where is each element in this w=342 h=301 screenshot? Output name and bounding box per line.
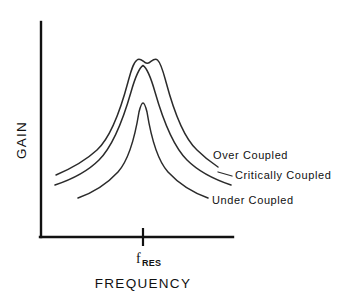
label-over-coupled: Over Coupled bbox=[213, 149, 288, 161]
chart-figure: Over Coupled Critically Coupled Under Co… bbox=[0, 0, 342, 301]
coupling-response-chart: Over Coupled Critically Coupled Under Co… bbox=[0, 0, 342, 301]
y-axis-title: GAIN bbox=[14, 121, 29, 159]
x-axis-title: FREQUENCY bbox=[95, 276, 191, 291]
label-under-coupled: Under Coupled bbox=[212, 194, 294, 206]
x-tick-label-fres-subscript: RES bbox=[142, 258, 161, 268]
label-critically-coupled: Critically Coupled bbox=[235, 169, 331, 181]
chart-background bbox=[0, 0, 342, 301]
x-tick-label-fres-main: f bbox=[136, 251, 141, 266]
